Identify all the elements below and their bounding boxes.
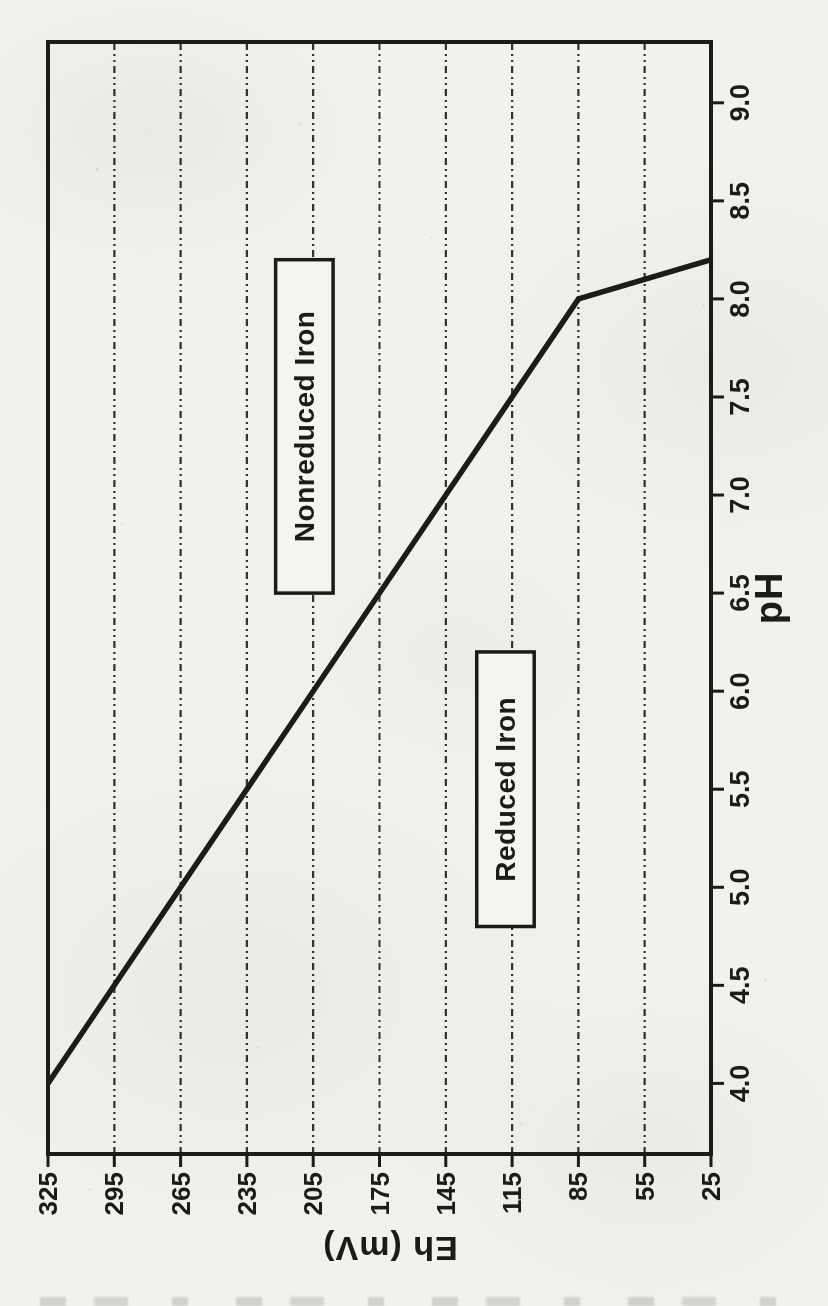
annotation-label: Nonreduced Iron <box>289 311 320 543</box>
y-tick-label: 175 <box>365 1172 395 1215</box>
y-tick-label: 265 <box>166 1172 196 1215</box>
y-tick-label: 235 <box>232 1172 262 1215</box>
x-tick-label: 5.0 <box>725 869 755 907</box>
y-tick-label: 325 <box>33 1172 63 1215</box>
y-tick-label: 205 <box>298 1172 328 1215</box>
x-tick-label: 7.5 <box>725 378 755 416</box>
annotation-label: Reduced Iron <box>490 697 521 882</box>
y-tick-label: 85 <box>563 1172 593 1201</box>
x-axis-title: pH <box>748 498 791 698</box>
x-tick-label: 4.5 <box>725 967 755 1005</box>
y-tick-label: 145 <box>431 1172 461 1215</box>
rotated-chart-figure: 2555851151451752052352652953254.04.55.05… <box>0 0 828 1306</box>
y-axis-title: Eh (mV) <box>322 1230 457 1269</box>
y-tick-label: 115 <box>497 1172 527 1214</box>
eh-ph-chart: 2555851151451752052352652953254.04.55.05… <box>0 0 828 1306</box>
x-tick-label: 5.5 <box>725 770 755 808</box>
y-tick-label: 295 <box>99 1172 129 1215</box>
y-tick-label: 55 <box>630 1172 660 1201</box>
x-tick-label: 9.0 <box>725 84 755 122</box>
scanned-document-page: 2555851151451752052352652953254.04.55.05… <box>0 0 828 1306</box>
x-tick-label: 4.0 <box>725 1065 755 1103</box>
x-tick-label: 8.0 <box>725 280 755 318</box>
x-tick-label: 8.5 <box>725 182 755 220</box>
y-tick-label: 25 <box>696 1172 726 1201</box>
